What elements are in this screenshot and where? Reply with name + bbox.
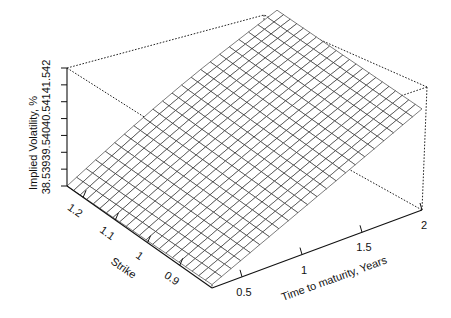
time-axis-tick-label: 2	[421, 219, 427, 231]
time-axis-tick-label: 0.5	[236, 286, 251, 298]
strike-axis-tick-label: 1.2	[66, 201, 85, 220]
time-axis-tick-label: 1	[301, 264, 307, 276]
time-axis-tick	[240, 270, 242, 277]
implied-volatility-surface-chart: 38.53939.54040.54141.5420.911.11.20.511.…	[0, 0, 451, 318]
z-axis-title: Implied Volatility, %	[27, 96, 39, 190]
strike-axis-tick-label: 0.9	[162, 269, 181, 288]
strike-axis-tick-label: 1	[134, 249, 146, 262]
strike-axis-tick-label: 1.1	[98, 223, 117, 242]
z-axis-tick-labels: 38.53939.54040.54141.542	[40, 60, 52, 195]
time-axis-tick	[360, 225, 362, 232]
time-axis-tick	[300, 248, 302, 255]
box-right-vertical	[422, 87, 427, 210]
x-axis-title: Time to maturity, Years	[280, 253, 389, 303]
time-axis-tick-label: 1.5	[356, 241, 371, 253]
